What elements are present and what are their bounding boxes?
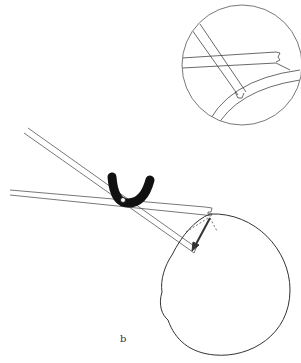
u-shaped-fulcrum [112, 177, 150, 203]
pivot-point [121, 198, 126, 203]
eye-globe-outline [160, 214, 290, 355]
diagram-canvas [0, 0, 301, 363]
panel-label: b [120, 333, 126, 344]
inset-magnified-view [182, 5, 301, 130]
force-arrows [186, 218, 217, 251]
